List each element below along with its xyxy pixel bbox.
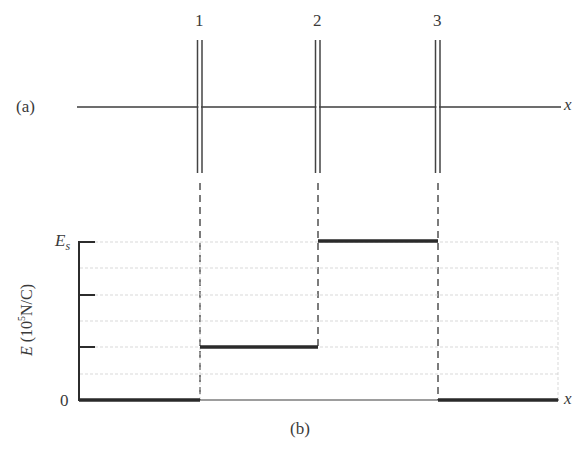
top-axis-x-label: x [564,96,572,113]
diagram-canvas [0,0,584,457]
y-axis-symbol: E [18,346,35,356]
chart-x-axis-label: x [564,390,572,407]
dashed-connectors [200,183,438,400]
es-subscript: s [65,239,70,253]
y-axis-exponent: 5 [16,316,27,321]
plate-2 [316,40,321,173]
es-symbol: E [55,231,65,250]
part-b-label: (b) [290,420,310,437]
chart-gridlines [80,242,558,400]
plate-3 [436,40,441,173]
y-ticks [79,242,95,347]
plate-2-label: 2 [313,12,322,29]
y-axis-label: E (105N/C) [16,284,35,356]
part-a-label: (a) [16,98,35,115]
plate-1 [198,40,203,173]
y-top-tick-label: Es [55,232,70,252]
y-zero-label: 0 [60,392,69,409]
plate-3-label: 3 [433,12,442,29]
y-axis-units-suffix: N/C) [18,284,35,316]
y-axis-units: (10 [18,321,35,342]
plate-1-label: 1 [195,12,204,29]
